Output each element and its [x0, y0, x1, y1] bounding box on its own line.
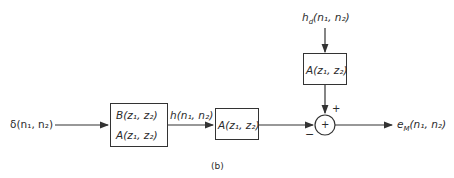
figure-caption: (b)	[211, 162, 224, 171]
error-output-label: eM(n₁, n₂)	[397, 119, 446, 133]
input-signal-label: δ(n₁, n₂)	[10, 119, 53, 130]
upper-a-box-text: A(z₁, z₂)	[306, 64, 348, 76]
desired-response-label: hd(n₁, n₂)	[302, 12, 350, 26]
filter-denominator: A(z₁, z₂)	[116, 129, 158, 141]
input-signal-text: δ(n₁, n₂)	[10, 118, 53, 130]
output-label-args: (n₁, n₂)	[410, 118, 447, 130]
filter-numerator: B(z₁, z₂)	[116, 109, 158, 121]
impulse-response-label: h(n₁, n₂)	[170, 110, 213, 121]
desired-label-args: (n₁, n₂)	[313, 11, 350, 23]
lower-a-box-text: A(z₁, z₂)	[218, 119, 260, 131]
summer-symbol: +	[321, 120, 329, 130]
plus-sign: +	[332, 104, 340, 114]
minus-sign: −	[305, 129, 314, 140]
signal-lines	[0, 0, 454, 178]
desired-label-main: h	[302, 11, 309, 23]
